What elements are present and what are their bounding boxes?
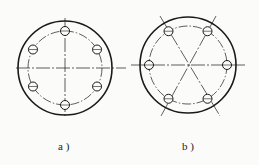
figure-b-bolt-circle — [131, 16, 245, 116]
figure-b-label: b ) — [182, 140, 194, 152]
figure-a-label: a ) — [58, 140, 69, 152]
diagram-canvas — [0, 0, 259, 165]
figure-a-bolt-circle — [16, 18, 126, 118]
